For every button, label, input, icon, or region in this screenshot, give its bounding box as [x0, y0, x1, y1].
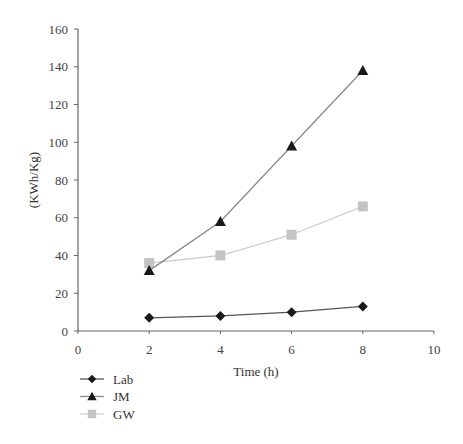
x-axis-title: Time (h)	[233, 364, 278, 379]
series-gw	[144, 201, 368, 268]
y-axis-title: (KWh/Kg)	[26, 152, 41, 208]
square-marker	[88, 410, 97, 419]
diamond-marker	[144, 313, 154, 323]
diamond-marker	[358, 301, 368, 311]
y-tick-label: 120	[49, 97, 69, 112]
square-marker	[215, 251, 225, 261]
x-tick-label: 4	[217, 342, 224, 357]
line-chart: 0204060801001201401600246810Time (h)(KWh…	[0, 0, 463, 444]
y-tick-label: 60	[55, 210, 68, 225]
square-marker	[358, 201, 368, 211]
y-tick-label: 80	[55, 173, 68, 188]
legend: LabJMGW	[80, 372, 135, 422]
diamond-marker	[88, 375, 97, 384]
y-tick-label: 140	[49, 59, 69, 74]
x-tick-label: 2	[146, 342, 153, 357]
axes: 0204060801001201401600246810Time (h)(KWh…	[26, 22, 441, 380]
series-line	[149, 206, 363, 263]
legend-label: JM	[113, 389, 130, 404]
legend-label: Lab	[113, 372, 133, 387]
y-tick-label: 160	[49, 22, 69, 37]
x-tick-label: 6	[288, 342, 295, 357]
legend-item-gw: GW	[80, 407, 135, 422]
legend-item-jm: JM	[80, 389, 130, 404]
legend-item-lab: Lab	[80, 372, 133, 387]
series-jm	[144, 65, 369, 275]
y-tick-label: 40	[55, 248, 68, 263]
x-tick-label: 8	[360, 342, 367, 357]
x-tick-label: 10	[428, 342, 441, 357]
series-line	[149, 306, 363, 317]
square-marker	[287, 230, 297, 240]
diamond-marker	[215, 311, 225, 321]
y-tick-label: 100	[49, 135, 69, 150]
triangle-marker	[357, 65, 368, 75]
series-lab	[144, 301, 368, 322]
y-tick-label: 20	[55, 286, 68, 301]
series-group	[144, 65, 369, 323]
series-line	[149, 71, 363, 271]
x-tick-label: 0	[75, 342, 82, 357]
legend-label: GW	[113, 407, 135, 422]
y-tick-label: 0	[62, 324, 69, 339]
diamond-marker	[287, 307, 297, 317]
